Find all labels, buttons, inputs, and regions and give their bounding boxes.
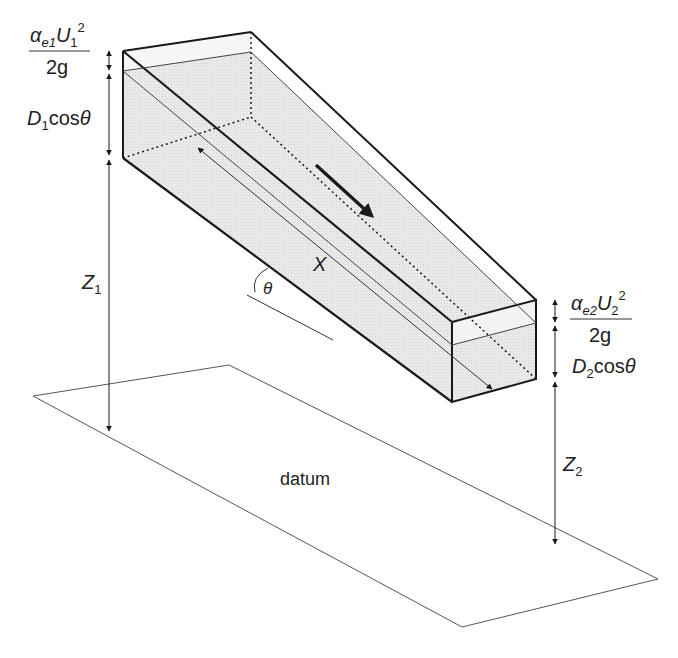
datum-label: datum <box>280 469 330 489</box>
water-body <box>123 32 536 402</box>
datum-plane <box>33 365 658 627</box>
svg-text:αe2U22: αe2U22 <box>571 288 626 318</box>
elevation-1-label: Z1 <box>81 271 101 297</box>
svg-text:αe1U12: αe1U12 <box>30 20 85 50</box>
elevation-2-label: Z2 <box>562 453 582 479</box>
depth-1-label: D1cosθ <box>27 107 91 133</box>
length-label: X <box>312 253 327 275</box>
depth-2-label: D2cosθ <box>572 355 636 381</box>
svg-text:2g: 2g <box>46 56 68 78</box>
velocity-head-2-label: αe2U22 2g <box>570 288 632 346</box>
angle-label: θ <box>263 279 273 298</box>
svg-text:2g: 2g <box>589 324 611 346</box>
velocity-head-1-label: αe1U12 2g <box>29 20 90 78</box>
channel-energy-diagram: αe1U12 2g D1cosθ Z1 αe2U22 2g D2cosθ Z2 … <box>0 0 678 658</box>
